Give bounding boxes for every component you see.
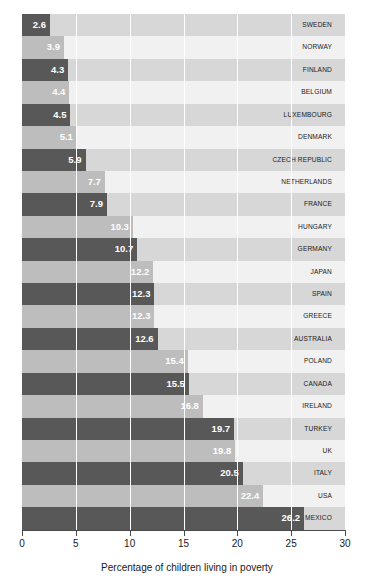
bar: 15.4 — [22, 350, 188, 372]
category-label: SWEDEN — [302, 14, 332, 36]
bar-value-label: 16.8 — [180, 395, 199, 417]
bar-value-label: 10.7 — [115, 238, 134, 260]
category-label: MEXICO — [305, 507, 332, 529]
bar: 4.3 — [22, 59, 68, 81]
x-tick-label: 5 — [73, 538, 79, 549]
x-tick-label: 0 — [19, 538, 25, 549]
bar-value-label: 7.7 — [88, 171, 101, 193]
x-tick-label: 15 — [178, 538, 189, 549]
bar: 2.6 — [22, 14, 50, 36]
bar-value-label: 26.2 — [282, 507, 301, 529]
category-label: FINLAND — [303, 59, 332, 81]
chart-row: 12.2JAPAN — [22, 261, 345, 283]
chart-row: 12.3GREECE — [22, 305, 345, 327]
x-tick — [76, 530, 77, 536]
chart-row: 7.7NETHERLANDS — [22, 171, 345, 193]
chart-row: 22.4USA — [22, 485, 345, 507]
x-tick — [184, 530, 185, 536]
bar: 5.9 — [22, 149, 86, 171]
x-tick — [22, 530, 23, 536]
bar: 4.4 — [22, 81, 69, 103]
chart-row: 19.8UK — [22, 440, 345, 462]
bar: 26.2 — [22, 507, 304, 529]
category-label: GREECE — [303, 305, 332, 327]
bar: 12.3 — [22, 305, 154, 327]
chart-row: 12.3SPAIN — [22, 283, 345, 305]
category-label: AUSTRALIA — [294, 328, 332, 350]
category-label: USA — [318, 485, 332, 507]
chart-row: 10.3HUNGARY — [22, 216, 345, 238]
bar: 3.9 — [22, 36, 64, 58]
chart-row: 19.7TURKEY — [22, 418, 345, 440]
bar: 12.2 — [22, 261, 153, 283]
bar-value-label: 12.6 — [135, 328, 154, 350]
x-tick — [291, 530, 292, 536]
bar: 12.3 — [22, 283, 154, 305]
bar-value-label: 7.9 — [90, 193, 103, 215]
category-label: UK — [323, 440, 332, 462]
category-label: NETHERLANDS — [281, 171, 332, 193]
chart-row: 16.8IRELAND — [22, 395, 345, 417]
bar: 22.4 — [22, 485, 263, 507]
category-label: SPAIN — [312, 283, 332, 305]
x-tick-label: 20 — [232, 538, 243, 549]
bar-value-label: 2.6 — [33, 14, 46, 36]
bar: 4.5 — [22, 104, 70, 126]
bar: 19.8 — [22, 440, 235, 462]
x-tick — [130, 530, 131, 536]
category-label: JAPAN — [310, 261, 332, 283]
category-label: TURKEY — [304, 418, 332, 440]
chart-row: 5.1DENMARK — [22, 126, 345, 148]
bar-value-label: 4.5 — [53, 104, 66, 126]
chart-row: 15.5CANADA — [22, 373, 345, 395]
bar-value-label: 4.3 — [51, 59, 64, 81]
bar: 5.1 — [22, 126, 77, 148]
category-label: POLAND — [304, 350, 332, 372]
bar: 7.7 — [22, 171, 105, 193]
category-label: BELGIUM — [301, 81, 332, 103]
chart-row: 7.9FRANCE — [22, 193, 345, 215]
bar-value-label: 5.9 — [68, 149, 81, 171]
chart-row: 12.6AUSTRALIA — [22, 328, 345, 350]
category-label: CANADA — [304, 373, 332, 395]
x-tick — [237, 530, 238, 536]
bar-value-label: 15.4 — [165, 350, 184, 372]
x-axis: 051015202530 — [22, 530, 345, 560]
category-label: FRANCE — [304, 193, 332, 215]
bar: 16.8 — [22, 395, 203, 417]
chart-row: 4.5LUXEMBOURG — [22, 104, 345, 126]
chart-row: 4.4BELGIUM — [22, 81, 345, 103]
chart-row: 3.9NORWAY — [22, 36, 345, 58]
chart-row: 5.9CZECH REPUBLIC — [22, 149, 345, 171]
chart-row: 10.7GERMANY — [22, 238, 345, 260]
category-label: HUNGARY — [298, 216, 332, 238]
bar-value-label: 22.4 — [241, 485, 260, 507]
x-tick-label: 30 — [339, 538, 350, 549]
category-label: LUXEMBOURG — [284, 104, 332, 126]
chart-row: 4.3FINLAND — [22, 59, 345, 81]
bar: 7.9 — [22, 193, 107, 215]
bar-value-label: 5.1 — [60, 126, 73, 148]
bar-value-label: 10.3 — [110, 216, 129, 238]
chart-row: 26.2MEXICO — [22, 507, 345, 529]
bar: 20.5 — [22, 462, 243, 484]
category-label: ITALY — [314, 462, 332, 484]
x-tick-label: 10 — [124, 538, 135, 549]
bar: 10.7 — [22, 238, 137, 260]
bar-value-label: 3.9 — [47, 36, 60, 58]
bar-value-label: 19.8 — [213, 440, 232, 462]
bar-value-label: 12.3 — [132, 283, 151, 305]
x-axis-title: Percentage of children living in poverty — [0, 562, 374, 573]
x-tick-label: 25 — [286, 538, 297, 549]
category-label: GERMANY — [298, 238, 332, 260]
chart-row: 20.5ITALY — [22, 462, 345, 484]
chart-row: 15.4POLAND — [22, 350, 345, 372]
plot-area: 2.6SWEDEN3.9NORWAY4.3FINLAND4.4BELGIUM4.… — [22, 14, 345, 530]
bar-value-label: 20.5 — [220, 462, 239, 484]
bar: 15.5 — [22, 373, 189, 395]
bar: 12.6 — [22, 328, 158, 350]
bar-value-label: 12.3 — [132, 305, 151, 327]
category-label: DENMARK — [298, 126, 332, 148]
bar-value-label: 19.7 — [212, 418, 231, 440]
chart-row: 2.6SWEDEN — [22, 14, 345, 36]
